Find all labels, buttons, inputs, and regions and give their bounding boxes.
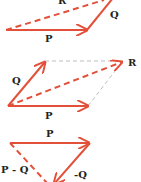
- vector-r-resultant: [8, 62, 122, 106]
- label-q: Q: [12, 75, 21, 86]
- label-p: P: [45, 33, 53, 44]
- label-p: P: [46, 128, 54, 139]
- label-p-minus-q: P - Q: [1, 164, 29, 175]
- vector-r-resultant: [6, 0, 104, 30]
- diagram-triangle-subtraction: P P - Q -Q: [1, 128, 90, 182]
- vector-diagrams: R Q P R Q P P P - Q -Q: [0, 0, 141, 182]
- vector-p-minus-q: [10, 143, 48, 182]
- diagram-parallelogram-addition: R Q P: [8, 57, 137, 121]
- label-r: R: [58, 0, 67, 6]
- diagram-triangle-addition: R Q P: [6, 0, 119, 44]
- label-q: Q: [110, 9, 119, 20]
- label-r: R: [128, 57, 137, 68]
- label-neg-q: -Q: [74, 169, 87, 180]
- label-p: P: [45, 110, 53, 121]
